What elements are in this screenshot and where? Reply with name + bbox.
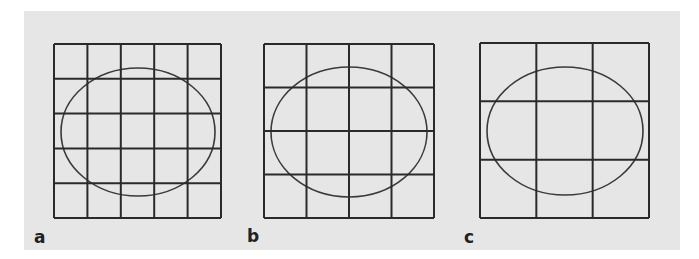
panel-label-b: b [247, 228, 259, 245]
ellipse-shape [61, 68, 215, 196]
grid-ellipse-figure [0, 0, 699, 259]
panel-c-3x3-grid [480, 43, 649, 218]
panel-b-4x4-grid [264, 44, 434, 218]
panel-label-c: c [464, 229, 474, 246]
ellipse-shape [487, 67, 643, 195]
panel-a-5x5-grid [54, 44, 221, 218]
panel-label-a: a [34, 229, 45, 246]
